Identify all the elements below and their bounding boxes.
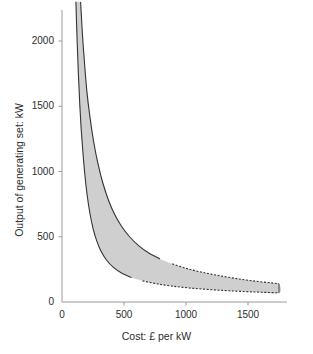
y-tick-label: 0 [18, 297, 54, 307]
x-tick-label: 500 [116, 310, 133, 320]
y-tick-label: 2000 [18, 36, 54, 46]
x-tick-label: 1000 [175, 310, 197, 320]
x-tick-label: 0 [59, 310, 65, 320]
x-tick-label: 1500 [237, 310, 259, 320]
band-fill [76, 2, 281, 294]
chart-container: 0500100015002000050010001500 Cost: £ per… [0, 0, 313, 354]
y-axis-title: Output of generating set: kW [13, 75, 25, 265]
x-axis-title: Cost: £ per kW [0, 330, 313, 342]
shaded-band-group [76, 2, 281, 294]
